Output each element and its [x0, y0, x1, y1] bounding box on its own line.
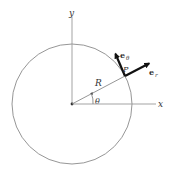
- svg-text:r: r: [155, 72, 158, 78]
- y-axis-label: y: [68, 8, 75, 18]
- e-r-vector: [125, 64, 149, 77]
- svg-text:e: e: [149, 67, 154, 77]
- svg-text:e: e: [120, 50, 125, 60]
- x-axis-label: x: [158, 99, 163, 109]
- angle-arc: [92, 94, 94, 104]
- polar-coordinates-diagram: y x R P θ e θ e r: [0, 0, 171, 175]
- e-r-label: e r: [149, 67, 158, 78]
- radius-label: R: [94, 78, 102, 88]
- point-label: P: [122, 65, 129, 74]
- e-theta-label: e θ: [120, 50, 130, 61]
- svg-text:θ: θ: [126, 55, 130, 61]
- angle-label: θ: [95, 97, 100, 106]
